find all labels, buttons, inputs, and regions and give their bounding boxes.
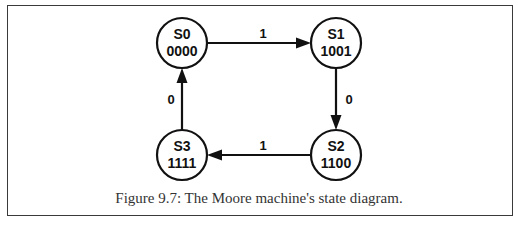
transition-label: 1 xyxy=(259,138,266,153)
transition-label: 0 xyxy=(167,92,174,107)
state-output: 1100 xyxy=(321,155,352,171)
arrowhead-up-icon xyxy=(177,68,188,83)
transition-s3-s0: 0 xyxy=(167,68,187,130)
transition-s0-s1: 1 xyxy=(207,26,311,49)
transition-label: 0 xyxy=(345,92,352,107)
transition-label: 1 xyxy=(259,26,266,41)
transition-s1-s2: 0 xyxy=(331,68,353,130)
state-name: S3 xyxy=(173,138,190,154)
state-s1: S1 1001 xyxy=(311,18,361,68)
arrowhead-right-icon xyxy=(296,38,311,49)
state-name: S1 xyxy=(327,26,344,42)
arrowhead-down-icon xyxy=(331,115,342,130)
state-output: 1001 xyxy=(320,43,351,59)
transition-s2-s3: 1 xyxy=(207,138,311,161)
state-s3: S3 1111 xyxy=(157,130,207,180)
state-s2: S2 1100 xyxy=(311,130,361,180)
arrowhead-left-icon xyxy=(207,150,222,161)
state-output: 0000 xyxy=(166,43,197,59)
state-name: S0 xyxy=(173,26,190,42)
figure-caption: Figure 9.7: The Moore machine's state di… xyxy=(0,190,518,207)
state-s0: S0 0000 xyxy=(157,18,207,68)
state-name: S2 xyxy=(327,138,344,154)
state-output: 1111 xyxy=(168,155,197,171)
